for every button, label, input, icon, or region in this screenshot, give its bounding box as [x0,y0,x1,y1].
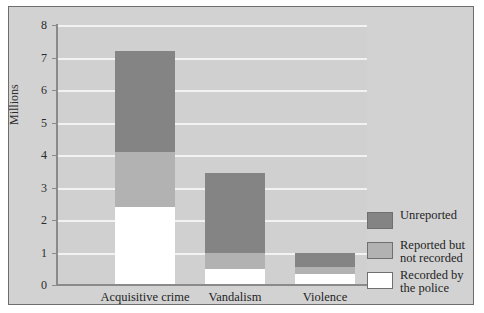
bar-segment-notrecorded [205,253,265,269]
legend-label: Unreported [400,209,457,222]
y-axis-tick-label: 5 [21,118,47,128]
x-axis-line [56,284,368,286]
y-axis-title: Millions [7,84,22,125]
y-axis-tick [52,253,58,254]
y-axis-tick [52,25,58,26]
y-axis-tick-label: 7 [21,53,47,63]
bar-stack [295,253,355,286]
y-axis-tick-label: 3 [21,183,47,193]
y-axis-tick [52,90,58,91]
chart-figure: 012345678 Millions Acquisitive crimeVand… [0,0,484,313]
chart-panel: 012345678 Millions Acquisitive crimeVand… [8,6,474,305]
gridline [57,155,367,157]
legend-label: Reported but not recorded [400,239,465,264]
legend-swatch-notrecorded [367,242,393,259]
bar-segment-notrecorded [295,267,355,274]
y-axis-tick-label: 1 [21,248,47,258]
y-axis-tick [52,220,58,221]
gridline [57,58,367,60]
y-axis-tick [52,123,58,124]
y-axis-tick-label: 2 [21,215,47,225]
gridline [57,123,367,125]
y-axis-tick [52,188,58,189]
legend-swatch-unreported [367,212,393,229]
y-axis-tick [52,285,58,286]
plot-area [57,25,367,285]
bar-segment-unreported [205,173,265,253]
y-axis-tick-label: 6 [21,85,47,95]
y-axis-tick-label: 8 [21,20,47,30]
legend-label: Recorded by the police [400,269,464,294]
legend-item: Reported but not recorded [367,240,484,266]
bar-segment-unreported [115,51,175,152]
bar-segment-police [115,207,175,285]
bar-segment-police [205,269,265,285]
bar-segment-notrecorded [115,152,175,207]
legend-item: Unreported [367,210,484,236]
bar-stack [205,173,265,285]
y-axis-tick [52,58,58,59]
y-axis-tick-label: 0 [21,280,47,290]
bar-segment-unreported [295,253,355,268]
chart-legend: UnreportedReported but not recordedRecor… [367,210,484,300]
legend-swatch-police [367,272,393,289]
bar-stack [115,51,175,285]
y-axis-tick [52,155,58,156]
gridline [57,90,367,92]
gridline [57,25,367,27]
y-axis-tick-label: 4 [21,150,47,160]
legend-item: Recorded by the police [367,270,484,296]
